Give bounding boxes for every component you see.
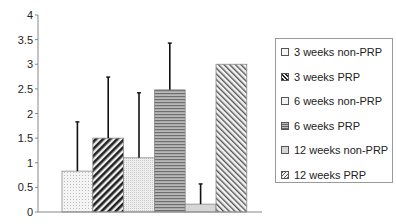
bar xyxy=(93,138,124,212)
legend-label: 6 weeks non-PRP xyxy=(294,95,382,107)
y-tick-label: 2.5 xyxy=(18,83,33,95)
y-tick-label: 2 xyxy=(27,108,33,120)
y-tick-label: 0 xyxy=(27,206,33,218)
legend: 3 weeks non-PRP3 weeks PRP6 weeks non-PR… xyxy=(275,38,393,183)
legend-swatch xyxy=(281,122,289,130)
legend-item: 12 weeks non-PRP xyxy=(281,144,388,156)
legend-label: 3 weeks PRP xyxy=(294,71,360,83)
bar xyxy=(62,171,93,212)
legend-item: 6 weeks non-PRP xyxy=(281,95,382,107)
y-axis: 00.511.522.533.54 xyxy=(18,9,38,218)
legend-item: 3 weeks non-PRP xyxy=(281,46,382,58)
legend-swatch xyxy=(281,73,289,81)
y-tick-label: 1.5 xyxy=(18,132,33,144)
legend-item: 3 weeks PRP xyxy=(281,71,360,83)
legend-label: 12 weeks PRP xyxy=(294,169,366,181)
legend-swatch xyxy=(281,146,289,154)
y-tick-label: 1 xyxy=(27,157,33,169)
y-tick-label: 3.5 xyxy=(18,34,33,46)
y-tick-label: 4 xyxy=(27,9,33,21)
legend-label: 6 weeks PRP xyxy=(294,120,360,132)
legend-label: 12 weeks non-PRP xyxy=(294,144,388,156)
legend-swatch xyxy=(281,97,289,105)
legend-swatch xyxy=(281,48,289,56)
bars xyxy=(62,43,247,212)
bar xyxy=(185,204,216,212)
legend-item: 12 weeks PRP xyxy=(281,169,366,181)
bar xyxy=(216,64,247,212)
y-tick-label: 0.5 xyxy=(18,181,33,193)
legend-label: 3 weeks non-PRP xyxy=(294,46,382,58)
legend-swatch xyxy=(281,171,289,179)
legend-item: 6 weeks PRP xyxy=(281,120,360,132)
bar xyxy=(124,158,155,212)
bar xyxy=(154,90,185,212)
y-tick-label: 3 xyxy=(27,58,33,70)
